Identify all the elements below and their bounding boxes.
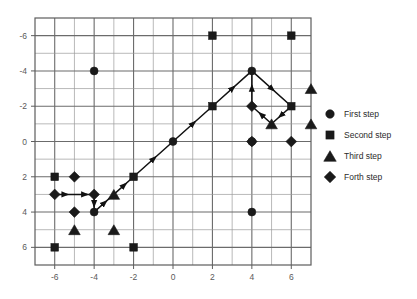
y-tick-label: -2 [19,101,27,111]
data-point-circle [90,67,98,75]
legend-label: Forth step [344,172,383,182]
data-point-square [51,173,59,181]
y-tick-label: 0 [22,137,27,147]
chart-container: -6-4-20246 -6-4-20246 First stepSecond s… [0,0,417,299]
legend-label: Second step [344,130,392,140]
y-tick-label: 2 [22,172,27,182]
x-tick-label: 2 [210,272,215,282]
data-point-circle [90,208,98,216]
data-point-square [209,102,217,110]
data-point-circle [248,67,256,75]
data-point-square [130,244,138,252]
data-point-square [288,102,296,110]
scatter-plot: -6-4-20246 -6-4-20246 First stepSecond s… [0,0,417,299]
legend-marker-circle [326,110,334,118]
legend-label: Third step [344,151,382,161]
x-tick-label: 4 [249,272,254,282]
y-tick-label: 4 [22,207,27,217]
x-tick-label: -4 [90,272,98,282]
x-tick-label: 0 [171,272,176,282]
x-tick-label: -2 [130,272,138,282]
data-point-square [209,32,217,40]
x-tick-label: 6 [289,272,294,282]
y-tick-label: -4 [19,66,27,76]
data-point-square [51,244,59,252]
legend-label: First step [344,109,379,119]
data-point-square [130,173,138,181]
data-point-circle [248,208,256,216]
x-tick-label: -6 [51,272,59,282]
data-point-square [288,32,296,40]
plot-background [0,0,417,299]
y-tick-label: -6 [19,31,27,41]
y-tick-label: 6 [22,242,27,252]
data-point-circle [169,138,177,146]
legend-marker-square [326,131,334,139]
